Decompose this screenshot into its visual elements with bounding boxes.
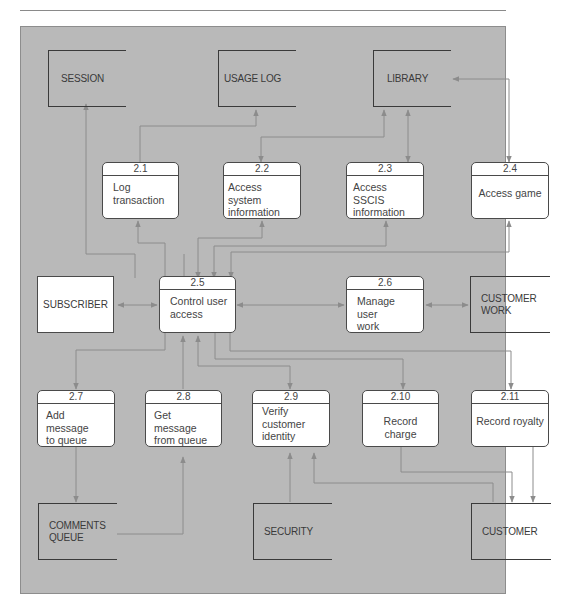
entity-subscriber: SUBSCRIBER (37, 276, 114, 333)
store-comments-queue-label-2: QUEUE (49, 532, 84, 544)
flow-usage-log (140, 110, 256, 164)
process-2-7[interactable]: 2.7 Add message to queue (37, 390, 115, 447)
store-session-label: SESSION (61, 73, 104, 85)
process-id: 2.2 (224, 163, 300, 176)
flow-comments-to-2-8 (117, 457, 183, 534)
flow-2-2 (198, 221, 262, 278)
process-id: 2.6 (347, 277, 423, 290)
flow-2-10-customer (401, 446, 512, 502)
store-security: SECURITY (253, 503, 332, 560)
store-security-label: SECURITY (264, 526, 313, 538)
store-library-label: LIBRARY (387, 73, 428, 85)
flow-2-4 (231, 221, 509, 278)
store-customer-label: CUSTOMER (482, 526, 537, 538)
process-id: 2.5 (160, 277, 235, 290)
flow-2-7 (76, 333, 165, 389)
process-label: Manage user work (347, 290, 423, 333)
process-label: Access system information (224, 176, 300, 219)
store-comments-queue-label-1: COMMENTS (49, 520, 106, 532)
process-id: 2.7 (38, 391, 114, 404)
process-label: Record charge (363, 404, 438, 440)
process-label: Control user access (160, 290, 235, 320)
flow-2-10 (215, 333, 403, 389)
process-label: Record royalty (472, 404, 548, 428)
process-id: 2.1 (103, 163, 178, 176)
store-customer-work: CUSTOMER WORK (470, 276, 550, 333)
flow-2-1 (138, 221, 165, 278)
store-usage-log: USAGE LOG (218, 50, 296, 107)
store-usage-log-label: USAGE LOG (224, 73, 281, 85)
process-2-11[interactable]: 2.11 Record royalty (471, 390, 549, 447)
process-2-6[interactable]: 2.6 Manage user work (346, 276, 424, 333)
process-label: Access game (472, 176, 548, 200)
process-label: Get message from queue (146, 404, 221, 447)
store-comments-queue: COMMENTS QUEUE (38, 503, 117, 560)
process-id: 2.8 (146, 391, 221, 404)
process-label: Add message to queue (38, 404, 114, 447)
flow-2-11 (230, 333, 511, 389)
process-id: 2.4 (472, 163, 548, 176)
flow-2-3 (214, 221, 386, 278)
entity-subscriber-label: SUBSCRIBER (43, 299, 108, 310)
process-2-4[interactable]: 2.4 Access game (471, 162, 549, 219)
process-2-2[interactable]: 2.2 Access system information (223, 162, 301, 219)
process-2-8[interactable]: 2.8 Get message from queue (145, 390, 222, 447)
store-customer: CUSTOMER (471, 503, 551, 560)
process-2-9[interactable]: 2.9 Verify customer identity (252, 390, 330, 447)
store-library: LIBRARY (373, 50, 451, 107)
flow-2-9 (198, 336, 290, 389)
flow-2-4-library (453, 79, 509, 162)
store-customer-work-label-1: CUSTOMER (481, 293, 536, 305)
process-2-1[interactable]: 2.1 Log transaction (102, 162, 179, 219)
process-id: 2.11 (472, 391, 548, 404)
process-2-10[interactable]: 2.10 Record charge (362, 390, 439, 447)
process-2-5[interactable]: 2.5 Control user access (159, 276, 236, 333)
process-label: Log transaction (103, 176, 178, 206)
process-id: 2.3 (347, 163, 423, 176)
store-customer-work-label-2: WORK (481, 305, 511, 317)
flow-customer-2-9 (314, 453, 493, 502)
process-label: Access SSCIS information (347, 176, 423, 219)
process-id: 2.9 (253, 391, 329, 404)
process-2-3[interactable]: 2.3 Access SSCIS information (346, 162, 424, 219)
process-label: Verify customer identity (253, 404, 329, 443)
process-id: 2.10 (363, 391, 438, 404)
store-session: SESSION (48, 50, 126, 107)
flow-2-2-library (261, 110, 384, 162)
